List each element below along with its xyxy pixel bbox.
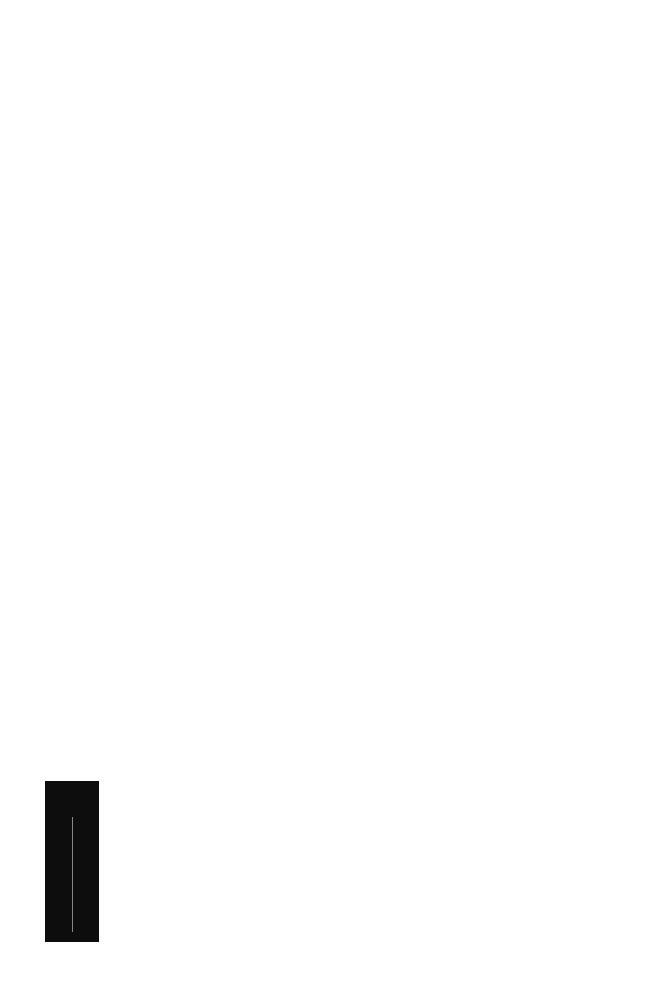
roster-title-box [45, 781, 99, 942]
title-divider [72, 817, 73, 932]
